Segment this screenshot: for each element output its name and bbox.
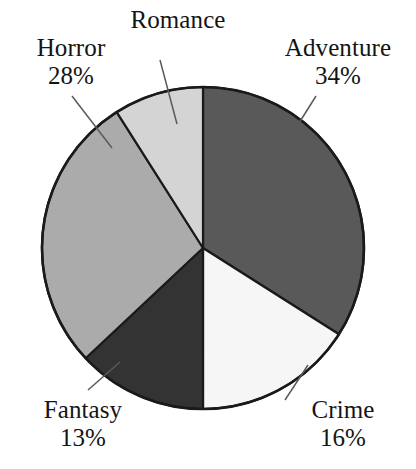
slice-label-romance-name: Romance bbox=[108, 6, 248, 34]
slice-label-fantasy: Fantasy 13% bbox=[14, 396, 152, 452]
slice-label-fantasy-name: Fantasy bbox=[14, 396, 152, 424]
slice-label-adventure-name: Adventure bbox=[262, 34, 414, 62]
slice-label-romance: Romance bbox=[108, 6, 248, 34]
slice-label-horror-name: Horror bbox=[8, 34, 134, 62]
slice-label-adventure: Adventure 34% bbox=[262, 34, 414, 90]
pie-chart: Horror 28% Romance Adventure 34% Fantasy… bbox=[0, 0, 416, 469]
slice-label-crime-name: Crime bbox=[288, 396, 398, 424]
slice-label-horror: Horror 28% bbox=[8, 34, 134, 90]
pie-slices bbox=[42, 87, 364, 409]
slice-label-crime: Crime 16% bbox=[288, 396, 398, 452]
slice-label-crime-pct: 16% bbox=[288, 424, 398, 452]
slice-label-adventure-pct: 34% bbox=[262, 62, 414, 90]
slice-label-fantasy-pct: 13% bbox=[14, 424, 152, 452]
slice-label-horror-pct: 28% bbox=[8, 62, 134, 90]
